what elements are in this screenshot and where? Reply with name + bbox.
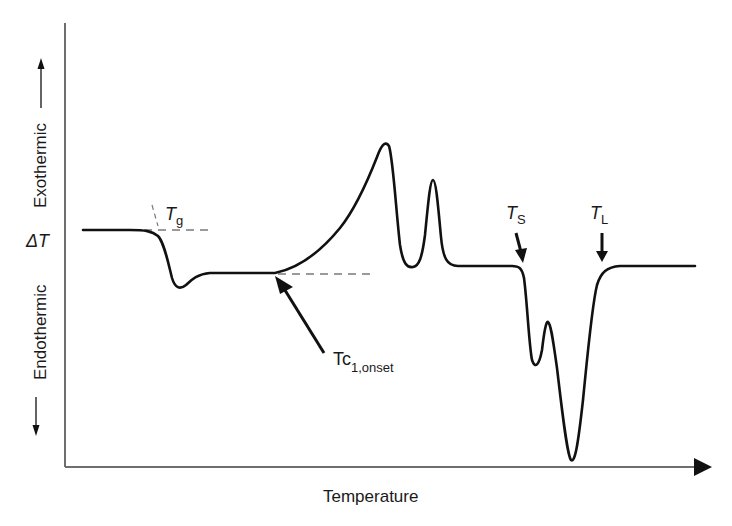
endothermic-label-group: Endothermic [31,284,50,436]
x-axis-arrowhead-icon [694,458,712,476]
tc-onset-arrowhead-icon [275,276,293,294]
thermogram-chart: Exothermic ΔT Endothermic Temperature Tg… [0,0,732,526]
tc-onset-arrow-shaft [283,287,324,353]
up-arrow-icon [38,58,45,69]
ts-label: TS [506,203,526,227]
tc-onset-label: Tc1,onset [333,349,394,375]
tl-label: TL [590,203,608,227]
tl-arrowhead-icon [596,251,608,262]
tg-tangent-line [152,205,158,226]
tg-label: Tg [165,204,183,228]
ts-arrowhead-icon [515,248,527,263]
exothermic-label-group: Exothermic [31,58,50,208]
delta-t-label: ΔT [25,231,51,251]
thermogram-curve [83,144,695,461]
x-axis-label: Temperature [323,487,418,506]
exothermic-label: Exothermic [31,122,50,208]
down-arrow-icon [33,425,40,436]
endothermic-label: Endothermic [31,284,50,380]
